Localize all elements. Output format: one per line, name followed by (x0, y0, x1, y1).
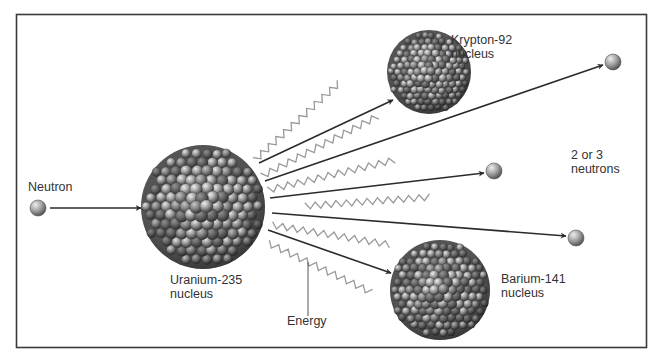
neutron-out-1-icon (605, 54, 621, 70)
energy-label-text: Energy (287, 314, 327, 328)
uranium-label: Uranium-235 nucleus (170, 273, 242, 301)
fission-diagram (0, 0, 661, 360)
barium-141-nucleus (390, 240, 490, 340)
barium-label: Barium-141 nucleus (501, 272, 566, 300)
krypton-label-line2: nucleus (451, 47, 512, 61)
krypton-label: Krypton-92 nucleus (451, 33, 512, 61)
krypton-label-line1: Krypton-92 (451, 33, 512, 47)
arrow-neutron-out-2 (270, 173, 484, 198)
neutron-out-3-icon (568, 230, 584, 246)
barium-label-line2: nucleus (501, 286, 566, 300)
neutron-label: Neutron (28, 180, 72, 194)
energy-wave (267, 158, 395, 192)
particle-paths (50, 65, 603, 273)
incoming-neutron-icon (30, 200, 46, 216)
uranium-235-nucleus (141, 145, 265, 269)
energy-wave (273, 222, 390, 248)
uranium-label-line1: Uranium-235 (170, 273, 242, 287)
neutrons-count-line2: neutrons (571, 162, 620, 176)
arrow-krypton-92 (259, 100, 393, 163)
neutron-label-text: Neutron (28, 180, 72, 194)
neutron-out-2-icon (486, 163, 502, 179)
energy-label: Energy (287, 314, 327, 328)
neutrons-count-line1: 2 or 3 (571, 148, 620, 162)
barium-label-line1: Barium-141 (501, 272, 566, 286)
energy-wave (305, 194, 430, 209)
neutrons-count-label: 2 or 3 neutrons (571, 148, 620, 176)
uranium-label-line2: nucleus (170, 287, 242, 301)
energy-wave (253, 80, 338, 159)
